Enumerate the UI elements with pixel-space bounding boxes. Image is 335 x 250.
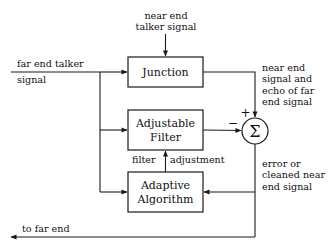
sigma-icon: Σ	[249, 122, 260, 141]
label-error-or-cleaned-near-end-signal: error orcleaned nearend signal	[262, 158, 334, 192]
echo-canceller-diagram: Junction Adjustable Filter Adaptive Algo…	[0, 0, 335, 250]
block-adaptive-algorithm-label-line2: Algorithm	[137, 193, 194, 206]
label-near-end-talker-signal: near endtalker signal	[126, 10, 206, 33]
summing-junction[interactable]: Σ	[242, 118, 268, 144]
block-adjustable-filter[interactable]: Adjustable Filter	[128, 110, 203, 150]
label-far-end-talker-signal-line2: signal	[17, 74, 112, 85]
block-junction-label: Junction	[141, 66, 188, 79]
label-filter-adjustment-left: filter	[132, 154, 156, 165]
block-adaptive-algorithm[interactable]: Adaptive Algorithm	[128, 172, 203, 212]
label-filter-adjustment-right: adjustment	[170, 154, 225, 165]
label-near-end-signal-and-echo: near endsignal andecho of farend signal	[262, 62, 334, 108]
label-far-end-talker-signal-line1: far end talker	[17, 58, 112, 69]
diagram-canvas: Junction Adjustable Filter Adaptive Algo…	[0, 0, 335, 250]
block-adjustable-filter-label-line1: Adjustable	[135, 117, 195, 130]
label-to-far-end: to far end	[22, 223, 70, 234]
plus-sign-label: +	[240, 106, 250, 120]
block-adaptive-algorithm-label-line1: Adaptive	[140, 179, 190, 192]
block-junction[interactable]: Junction	[128, 57, 203, 87]
wire-filter-to-sum	[203, 130, 241, 131]
block-adjustable-filter-label-line2: Filter	[150, 131, 182, 144]
minus-sign-label: −	[228, 116, 238, 130]
